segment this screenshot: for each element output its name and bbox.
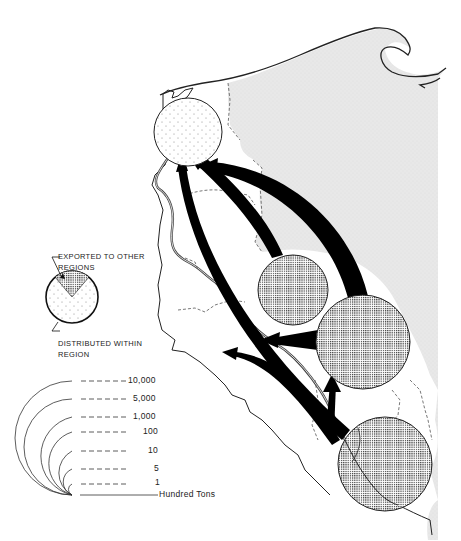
circle-center-region bbox=[258, 255, 328, 325]
circle-south-region bbox=[338, 417, 432, 511]
exported-label-line1: EXPORTED TO OTHER bbox=[58, 251, 145, 262]
scale-unit-label: Hundred Tons bbox=[159, 489, 215, 499]
scale-label-5000: 5,000 bbox=[133, 393, 156, 403]
distributed-label-line2: REGION bbox=[58, 349, 89, 360]
scale-label-1000: 1,000 bbox=[133, 411, 156, 421]
circle-north-region bbox=[154, 98, 222, 166]
exported-label-line2: REGIONS bbox=[58, 262, 95, 273]
scale-label-1: 1 bbox=[155, 477, 160, 487]
distributed-leader-line bbox=[52, 322, 60, 331]
circle-east-region bbox=[316, 295, 410, 389]
distributed-label-line1: DISTRIBUTED WITHIN bbox=[58, 338, 142, 349]
scale-label-100: 100 bbox=[143, 426, 158, 436]
scale-label-5: 5 bbox=[154, 463, 159, 473]
scale-label-10: 10 bbox=[148, 445, 158, 455]
scale-label-10000: 10,000 bbox=[128, 375, 156, 385]
